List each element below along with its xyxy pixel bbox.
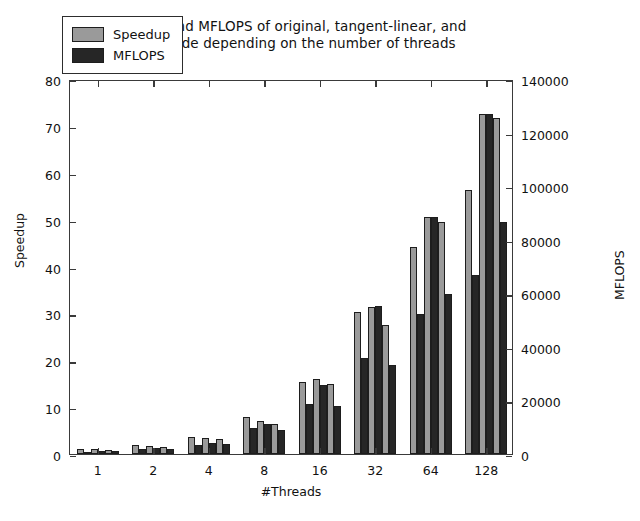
y-tick-60: [70, 175, 76, 176]
bar-128-tangent-linear-mflops: [486, 114, 493, 454]
x-tick-label-2: 2: [123, 463, 183, 478]
bar-32-tangent-linear-mflops: [375, 306, 382, 454]
bar-2-adjoint-speedup: [160, 447, 167, 455]
bar-group-16: [299, 81, 341, 454]
bar-128-original-mflops: [472, 275, 479, 454]
bar-1-adjoint-mflops: [112, 451, 119, 454]
y-tick-label-40: 40: [19, 261, 61, 276]
bar-16-original-mflops: [306, 404, 313, 454]
y2-tick-100000: [506, 188, 512, 189]
bar-128-tangent-linear-speedup: [479, 114, 486, 454]
legend-swatch-mflops-icon: [72, 48, 104, 63]
y2-tick-label-20000: 20000: [521, 395, 601, 410]
x-tick-label-1: 1: [68, 463, 128, 478]
y-tick-50: [70, 222, 76, 223]
y2-tick-20000: [506, 402, 512, 403]
x-tick-top-1: [98, 81, 99, 87]
y2-tick-label-40000: 40000: [521, 341, 601, 356]
legend-item-mflops: MFLOPS: [72, 45, 170, 66]
y-tick-label-30: 30: [19, 308, 61, 323]
bar-2-original-speedup: [132, 445, 139, 454]
bar-group-4: [188, 81, 230, 454]
bar-32-original-mflops: [361, 358, 368, 454]
x-tick-top-8: [264, 81, 265, 87]
bar-1-adjoint-speedup: [105, 450, 112, 454]
x-tick-label-64: 64: [401, 463, 461, 478]
bar-1-original-speedup: [77, 449, 84, 454]
bar-2-original-mflops: [139, 449, 146, 454]
x-tick-16: [320, 448, 321, 454]
legend-label-mflops: MFLOPS: [113, 48, 165, 63]
y-tick-10: [70, 409, 76, 410]
bar-2-tangent-linear-speedup: [146, 446, 153, 454]
y-tick-label-0: 0: [19, 449, 61, 464]
x-tick-top-2: [153, 81, 154, 87]
y-tick-30: [70, 315, 76, 316]
legend-swatch-speedup-icon: [72, 27, 104, 42]
bar-group-2: [132, 81, 174, 454]
y-tick-80: [70, 81, 76, 82]
bar-8-tangent-linear-speedup: [257, 421, 264, 454]
x-tick-label-32: 32: [345, 463, 405, 478]
bar-4-original-mflops: [195, 445, 202, 454]
y2-tick-label-0: 0: [521, 449, 601, 464]
bar-4-adjoint-mflops: [223, 444, 230, 454]
x-tick-top-4: [209, 81, 210, 87]
y-tick-label-20: 20: [19, 355, 61, 370]
x-tick-4: [209, 448, 210, 454]
bar-8-original-speedup: [243, 417, 250, 454]
x-tick-top-128: [486, 81, 487, 87]
x-tick-top-16: [320, 81, 321, 87]
x-tick-top-64: [431, 81, 432, 87]
bar-16-adjoint-mflops: [334, 406, 341, 454]
bar-1-original-mflops: [84, 452, 91, 454]
plot-area: 1248163264128010203040506070800200004000…: [69, 80, 513, 455]
chart-figure: Speedup and MFLOPS of original, tangent-…: [0, 0, 640, 521]
bar-group-32: [354, 81, 396, 454]
bar-64-adjoint-mflops: [445, 294, 452, 454]
chart-legend: Speedup MFLOPS: [62, 16, 183, 74]
y-tick-70: [70, 128, 76, 129]
x-tick-label-4: 4: [179, 463, 239, 478]
bar-4-original-speedup: [188, 437, 195, 454]
bar-128-adjoint-mflops: [500, 222, 507, 454]
x-tick-1: [98, 448, 99, 454]
bar-32-adjoint-speedup: [382, 325, 389, 454]
x-tick-top-32: [375, 81, 376, 87]
bar-8-adjoint-mflops: [278, 430, 285, 454]
bar-32-adjoint-mflops: [389, 365, 396, 454]
bar-4-adjoint-speedup: [216, 439, 223, 454]
x-tick-label-128: 128: [456, 463, 516, 478]
bar-group-1: [77, 81, 119, 454]
bar-group-8: [243, 81, 285, 454]
y-tick-label-80: 80: [19, 74, 61, 89]
y-tick-0: [70, 456, 76, 457]
bar-16-tangent-linear-speedup: [313, 379, 320, 454]
bar-16-original-speedup: [299, 382, 306, 454]
bar-8-original-mflops: [250, 428, 257, 454]
x-tick-2: [153, 448, 154, 454]
y2-tick-label-140000: 140000: [521, 74, 601, 89]
bar-1-tangent-linear-speedup: [91, 449, 98, 454]
bar-2-adjoint-mflops: [167, 449, 174, 454]
legend-label-speedup: Speedup: [113, 27, 170, 42]
bar-128-adjoint-speedup: [493, 118, 500, 454]
y2-tick-label-120000: 120000: [521, 127, 601, 142]
x-tick-8: [264, 448, 265, 454]
y2-tick-60000: [506, 295, 512, 296]
y-tick-label-60: 60: [19, 167, 61, 182]
bar-32-original-speedup: [354, 312, 361, 454]
bar-64-tangent-linear-mflops: [431, 217, 438, 454]
y2-tick-0: [506, 456, 512, 457]
y2-tick-label-100000: 100000: [521, 181, 601, 196]
bar-8-adjoint-speedup: [271, 424, 278, 454]
y2-tick-40000: [506, 349, 512, 350]
legend-item-speedup: Speedup: [72, 24, 170, 45]
bar-16-tangent-linear-mflops: [320, 385, 327, 454]
x-tick-64: [431, 448, 432, 454]
y2-tick-140000: [506, 81, 512, 82]
y-tick-label-50: 50: [19, 214, 61, 229]
bar-64-adjoint-speedup: [438, 222, 445, 454]
y2-tick-80000: [506, 242, 512, 243]
bar-32-tangent-linear-speedup: [368, 307, 375, 454]
